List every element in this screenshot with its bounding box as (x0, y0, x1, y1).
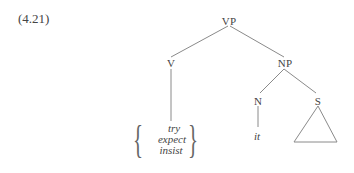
left-brace: { (133, 119, 143, 159)
branch-vp-v (171, 26, 228, 57)
right-brace: } (188, 119, 198, 159)
leaf-it: it (254, 130, 260, 142)
node-n: N (254, 95, 262, 107)
node-vp: VP (222, 15, 236, 27)
node-np: NP (278, 57, 292, 69)
branch-np-s (284, 69, 316, 93)
verb-insist: insist (159, 144, 182, 156)
branch-np-n (260, 69, 284, 93)
node-v: V (167, 57, 175, 69)
node-s: S (315, 95, 321, 107)
branch-vp-np (230, 26, 284, 57)
triangle-s (294, 106, 337, 142)
